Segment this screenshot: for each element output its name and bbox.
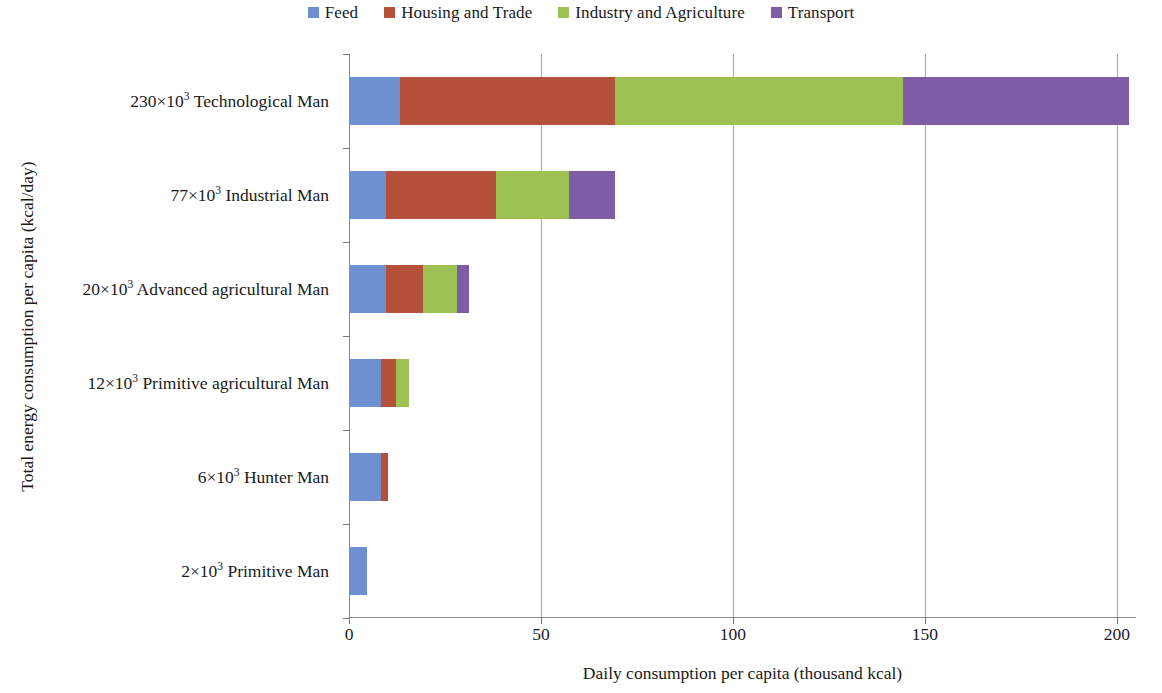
bar-row [350, 77, 1137, 125]
bar-segment-feed[interactable] [350, 265, 386, 313]
y-category-label: 6×103 Hunter Man [0, 467, 339, 487]
x-tick-label: 50 [532, 624, 550, 644]
x-tick-label: 100 [720, 624, 746, 644]
y-category-label: 2×103 Primitive Man [0, 561, 339, 581]
bar-segment-housing-and-trade[interactable] [381, 453, 389, 501]
gridline [1117, 54, 1118, 618]
bar-row [350, 359, 1137, 407]
exponent: 3 [132, 372, 138, 384]
legend-item-label: Transport [788, 4, 854, 21]
x-axis-line [349, 617, 1136, 618]
exponent: 3 [215, 184, 221, 196]
bar-segment-transport[interactable] [569, 171, 615, 219]
bar-segment-industry-and-agriculture[interactable] [615, 77, 903, 125]
x-tick-mark [925, 617, 926, 624]
gridline [925, 54, 926, 618]
y-tick-mark [343, 148, 350, 149]
legend-item-transport[interactable]: Transport [771, 4, 854, 21]
legend-item-label: Feed [325, 4, 358, 21]
y-category-label: 230×103 Technological Man [0, 91, 339, 111]
exponent: 3 [234, 466, 240, 478]
bar-segment-feed[interactable] [350, 359, 381, 407]
bar-segment-housing-and-trade[interactable] [400, 77, 615, 125]
legend-item-feed[interactable]: Feed [308, 4, 358, 21]
bar-segment-transport[interactable] [457, 265, 469, 313]
bar-segment-industry-and-agriculture[interactable] [423, 265, 458, 313]
legend-item-industry-and-agriculture[interactable]: Industry and Agriculture [558, 4, 745, 21]
bar-segment-feed[interactable] [350, 77, 400, 125]
bar-segment-transport[interactable] [903, 77, 1130, 125]
y-tick-mark [343, 524, 350, 525]
x-tick-label: 150 [912, 624, 938, 644]
x-tick-label: 0 [345, 624, 354, 644]
exponent: 3 [184, 90, 190, 102]
x-axis-title: Daily consumption per capita (thousand k… [349, 663, 1136, 684]
chart-legend: FeedHousing and TradeIndustry and Agricu… [0, 4, 1162, 21]
bar-row [350, 171, 1137, 219]
bar-segment-housing-and-trade[interactable] [381, 359, 396, 407]
x-tick-mark [541, 617, 542, 624]
y-tick-mark [343, 242, 350, 243]
y-category-label: 12×103 Primitive agricultural Man [0, 373, 339, 393]
bar-row [350, 547, 1137, 595]
y-tick-mark [343, 430, 350, 431]
y-tick-mark [343, 618, 350, 619]
exponent: 3 [217, 560, 223, 572]
legend-swatch-icon [771, 7, 782, 18]
x-axis-tick-labels: 050100150200 [349, 624, 1136, 648]
y-tick-mark [343, 336, 350, 337]
legend-item-label: Housing and Trade [401, 4, 532, 21]
bar-segment-industry-and-agriculture[interactable] [496, 171, 569, 219]
bar-segment-housing-and-trade[interactable] [386, 171, 495, 219]
x-tick-mark [733, 617, 734, 624]
x-tick-label: 200 [1104, 624, 1130, 644]
bar-segment-feed[interactable] [350, 171, 386, 219]
legend-item-housing-and-trade[interactable]: Housing and Trade [384, 4, 532, 21]
bar-segment-industry-and-agriculture[interactable] [396, 359, 409, 407]
exponent: 3 [127, 278, 133, 290]
plot-area [349, 54, 1136, 618]
legend-swatch-icon [558, 7, 569, 18]
legend-swatch-icon [384, 7, 395, 18]
y-axis-tick-labels: 230×103 Technological Man77×103 Industri… [0, 54, 339, 618]
bar-segment-feed[interactable] [350, 547, 367, 595]
bar-segment-housing-and-trade[interactable] [386, 265, 422, 313]
bar-row [350, 453, 1137, 501]
gridline [541, 54, 542, 618]
chart-figure: FeedHousing and TradeIndustry and Agricu… [0, 0, 1162, 693]
y-tick-mark [343, 54, 350, 55]
legend-swatch-icon [308, 7, 319, 18]
legend-item-label: Industry and Agriculture [575, 4, 745, 21]
x-tick-mark [1117, 617, 1118, 624]
y-category-label: 77×103 Industrial Man [0, 185, 339, 205]
gridline [733, 54, 734, 618]
bar-segment-feed[interactable] [350, 453, 381, 501]
bar-row [350, 265, 1137, 313]
y-category-label: 20×103 Advanced agricultural Man [0, 279, 339, 299]
